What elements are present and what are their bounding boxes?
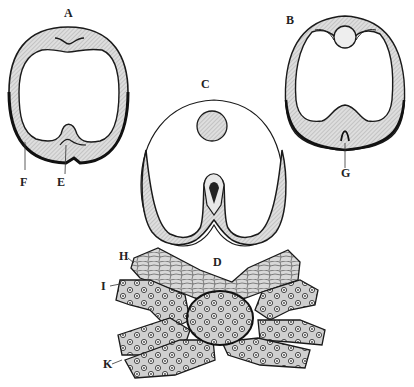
label-e: E (57, 176, 65, 188)
figure-b (285, 16, 404, 168)
label-g: G (341, 167, 350, 179)
diagram-drawing (0, 0, 414, 387)
diagram-stage: A B C D E F G H I K (0, 0, 414, 387)
figure-a (9, 27, 128, 174)
label-f: F (20, 176, 27, 188)
label-h: H (119, 250, 128, 262)
label-d: D (213, 256, 222, 268)
figure-c (141, 100, 286, 246)
leader-k (112, 360, 122, 364)
label-c: C (201, 78, 210, 90)
label-b: B (286, 14, 294, 26)
label-i: I (101, 280, 106, 292)
label-a: A (64, 7, 73, 19)
label-k: K (103, 358, 112, 370)
